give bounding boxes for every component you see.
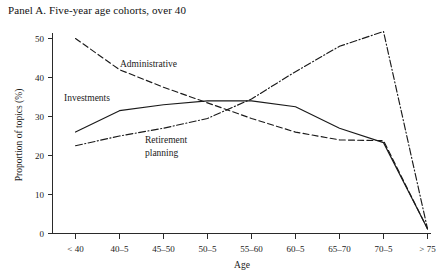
- chart-panel: Panel A. Five-year age cohorts, over 40 …: [0, 0, 445, 278]
- y-axis-title: Proportion of topics (%): [14, 89, 25, 182]
- series-label-administrative: Administrative: [120, 59, 177, 69]
- y-tick-label-30: 30: [35, 112, 45, 122]
- x-tick-label-6: 65–70: [328, 244, 351, 254]
- x-tick-label-3: 50–5: [199, 244, 218, 254]
- series-label-planning: planning: [145, 148, 178, 158]
- x-axis-tick-labels: < 40 40–5 45–50 50–5 55–60 60–5 65–70 70…: [67, 244, 436, 254]
- y-tick-label-40: 40: [35, 73, 45, 83]
- x-axis-ticks: [76, 234, 428, 240]
- x-tick-label-4: 55–60: [240, 244, 263, 254]
- x-axis-title: Age: [234, 260, 250, 270]
- line-chart: 0 10 20 30 40 50 < 40 40–5 45–50 50–5 55…: [0, 0, 445, 278]
- x-tick-label-0: < 40: [67, 244, 84, 254]
- y-axis-ticks: [48, 39, 53, 234]
- y-axis-tick-labels: 0 10 20 30 40 50: [35, 34, 45, 239]
- y-tick-label-10: 10: [35, 190, 45, 200]
- series-line-investments: [76, 101, 428, 229]
- x-tick-label-2: 45–50: [152, 244, 175, 254]
- x-tick-label-7: 70–5: [375, 244, 394, 254]
- y-tick-label-50: 50: [35, 34, 45, 44]
- series-label-retirement: Retirement: [145, 135, 188, 145]
- y-tick-label-20: 20: [35, 151, 45, 161]
- x-tick-label-8: > 75: [419, 244, 436, 254]
- y-tick-label-0: 0: [40, 229, 45, 239]
- series-label-investments: Investments: [64, 93, 110, 103]
- x-tick-label-5: 60–5: [287, 244, 306, 254]
- x-tick-label-1: 40–5: [111, 244, 130, 254]
